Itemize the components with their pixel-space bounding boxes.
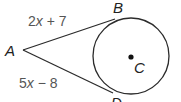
center-point-c: [128, 54, 133, 59]
point-label-d: D: [111, 94, 122, 102]
segment-label-ad: 5x − 8: [19, 75, 58, 91]
segment-ad-coef: 5: [19, 75, 27, 91]
segment-ab-rest: + 7: [43, 13, 67, 29]
segment-ab-coef: 2: [28, 13, 36, 29]
segment-label-ab: 2x + 7: [28, 13, 67, 29]
point-label-b: B: [113, 0, 123, 16]
tangent-circle-diagram: A B C D 2x + 7 5x − 8: [0, 0, 181, 102]
segment-ad-rest: − 8: [34, 75, 58, 91]
point-label-a: A: [4, 42, 15, 59]
point-label-c: C: [134, 59, 145, 76]
